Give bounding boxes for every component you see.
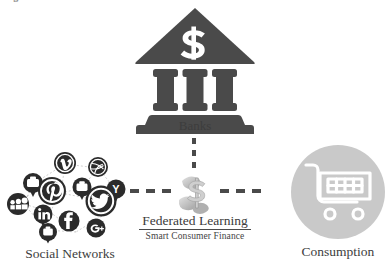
figure-caption-sliver: Fig. 1. Framework overview. [4,0,154,2]
pinterest-icon [38,177,66,205]
google-plus-icon [87,219,106,238]
social-network-cluster-icon: Y [6,138,134,246]
message-icon [39,223,57,244]
federated-learning-title: Federated Learning [128,213,262,229]
node-banks [133,6,257,134]
node-banks-label: Banks [133,118,257,134]
myspace-icon [7,193,29,215]
vimeo-icon [54,152,76,174]
federated-learning-subtitle: Smart Consumer Finance [128,231,262,241]
shopping-cart-icon [304,161,374,225]
bank-icon [133,6,257,134]
connector-social-networks-to-federated-learning [129,186,173,196]
money-dollar-icon [175,172,213,216]
node-consumption-label: Consumption [284,244,389,260]
figure-canvas: Fig. 1. Framework overview. [0,0,389,271]
federated-learning-underline [139,229,251,230]
node-social-networks: Y [6,138,134,246]
node-social-networks-label: Social Networks [2,246,138,262]
connector-banks-to-federated-learning [189,136,199,176]
node-consumption [291,145,385,239]
facebook-icon [59,211,80,232]
twitter-icon [86,186,117,217]
dribbble-icon [88,157,108,177]
connector-federated-learning-to-consumption [219,186,263,196]
